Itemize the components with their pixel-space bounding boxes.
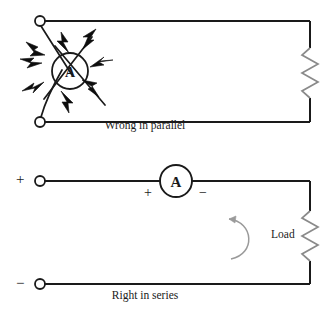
spark-bolt-sw <box>22 82 44 93</box>
bottom-circuit-group: A <box>35 165 318 289</box>
spark-bolt-w <box>20 58 42 68</box>
terminal-plus-label: + <box>16 172 24 187</box>
bottom-ammeter-letter: A <box>171 174 182 190</box>
caption-wrong-in-parallel: Wrong in parallel <box>0 119 290 131</box>
diagram-canvas: A <box>0 0 334 311</box>
top-circuit-group: A <box>20 16 318 127</box>
caption-right-in-series: Right in series <box>0 289 290 301</box>
bottom-terminal-plus-icon <box>35 176 45 186</box>
current-direction-arrow-icon <box>229 216 249 259</box>
top-terminal-upper-icon <box>35 16 45 26</box>
terminal-minus-label: − <box>16 276 24 291</box>
spark-bolt-s <box>61 91 73 113</box>
spark-bolt-nw <box>26 42 45 56</box>
bottom-load-resistor-icon <box>302 211 318 261</box>
ammeter-minus-label: − <box>199 186 207 200</box>
top-load-resistor-icon <box>302 48 318 98</box>
top-ammeter-letter: A <box>65 65 76 80</box>
circuit-diagram-figure: A <box>0 0 334 311</box>
load-label: Load <box>271 228 295 240</box>
spark-bolt-e <box>90 57 113 67</box>
spark-bolt-ne <box>83 29 96 49</box>
ammeter-plus-label: + <box>144 186 152 200</box>
bottom-terminal-minus-icon <box>35 279 45 289</box>
